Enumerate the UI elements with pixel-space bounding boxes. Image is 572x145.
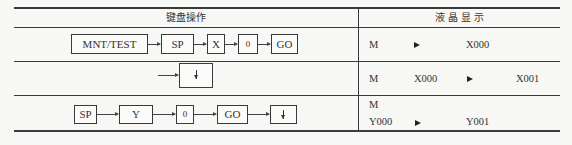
header-keyboard-operation: 键盘操作: [14, 9, 358, 27]
key-0[interactable]: 0: [238, 34, 258, 54]
key-go[interactable]: GO: [217, 105, 248, 124]
lcd-row-2-to: X001: [516, 73, 539, 84]
key-down[interactable]: [270, 105, 297, 124]
play-arrow-icon: [414, 42, 420, 48]
key-x[interactable]: X: [207, 34, 225, 54]
key-y[interactable]: Y: [119, 105, 153, 124]
lcd-row-2-from: X000: [414, 73, 437, 84]
key-0[interactable]: 0: [176, 105, 194, 124]
lcd-row-1-mode: M: [369, 39, 378, 50]
header-lcd-display: 液 晶 显 示: [359, 9, 560, 27]
lcd-row-3-to: Y001: [466, 116, 489, 127]
key-go[interactable]: GO: [271, 34, 298, 54]
arrow-icon: [225, 44, 237, 45]
lcd-row-3-from: Y000: [369, 116, 392, 127]
arrow-icon: [153, 114, 175, 115]
header-divider: [14, 27, 560, 28]
arrow-icon: [258, 44, 270, 45]
lcd-row-1-value: X000: [466, 39, 489, 50]
down-arrow-icon: [281, 110, 287, 120]
lcd-row-3-mode: M: [369, 99, 378, 110]
arrow-icon: [248, 114, 269, 115]
key-mnt-test[interactable]: MNT/TEST: [71, 34, 148, 54]
lcd-row-2-mode: M: [369, 73, 378, 84]
play-arrow-icon: [415, 120, 421, 126]
row-divider-1: [14, 61, 560, 62]
key-sp[interactable]: SP: [74, 105, 97, 124]
arrow-icon: [194, 114, 216, 115]
table-bottom-border: [14, 130, 560, 132]
arrow-icon: [158, 75, 178, 76]
arrow-icon: [194, 44, 206, 45]
arrow-icon: [148, 44, 160, 45]
play-arrow-icon: [467, 76, 473, 82]
row-divider-2: [14, 95, 560, 96]
key-down[interactable]: [179, 63, 213, 88]
down-arrow-icon: [193, 70, 199, 80]
key-sp[interactable]: SP: [161, 34, 194, 54]
arrow-icon: [97, 114, 118, 115]
